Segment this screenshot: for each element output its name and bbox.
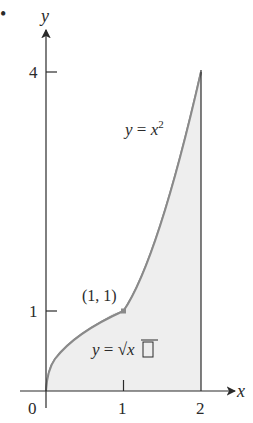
y-axis-label: y bbox=[39, 6, 49, 26]
point-marker bbox=[121, 309, 126, 314]
x-tick-label-2: 2 bbox=[196, 399, 205, 418]
bullet: • bbox=[0, 4, 6, 24]
chart: • y x 4 1 0 1 2 (1, 1) y = x2 y = √x bbox=[0, 0, 253, 423]
equation-lower: y = √x bbox=[90, 340, 135, 359]
point-label: (1, 1) bbox=[82, 287, 117, 305]
x-axis-label: x bbox=[236, 381, 245, 401]
y-tick-label-1: 1 bbox=[29, 302, 38, 321]
origin-label: 0 bbox=[28, 399, 37, 418]
y-tick-label-4: 4 bbox=[29, 63, 38, 82]
equation-upper: y = x2 bbox=[123, 118, 164, 139]
x-tick-label-1: 1 bbox=[118, 399, 127, 418]
